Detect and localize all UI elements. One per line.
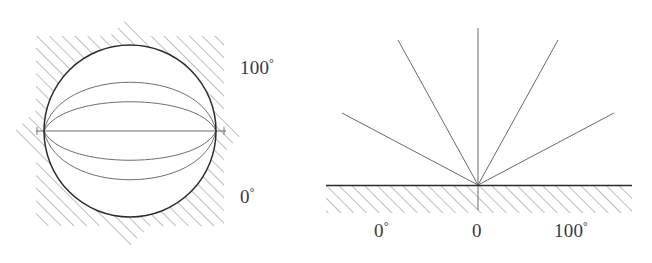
half-plane-geodesic-rays [342,28,614,185]
ray-4 [478,40,558,185]
sphere-disk-panel: 100° 0° [0,0,326,263]
sphere-label-top-value: 100 [240,57,269,78]
sphere-label-top: 100° [240,58,274,77]
half-plane-axis-label-origin-value: 0 [472,220,482,241]
sphere-label-bottom-value: 0 [240,186,250,207]
sphere-label-bottom-degree-icon: ° [250,186,255,199]
sphere-label-bottom: 0° [240,187,255,206]
half-plane-panel: 0° 0 100° [326,0,652,263]
half-plane-axis-label-right-degree-icon: ° [583,220,588,233]
half-plane-axis-label-right: 100° [554,221,588,240]
half-plane-below-hatching [326,186,632,213]
half-plane-axis-label-left: 0° [374,221,389,240]
sphere-disk-svg [0,0,326,263]
half-plane-axis-label-right-value: 100 [554,220,583,241]
half-plane-axis-label-left-degree-icon: ° [384,220,389,233]
sphere-label-top-degree-icon: ° [269,57,274,70]
half-plane-axis-label-origin: 0 [472,221,482,240]
half-plane-axis-label-left-value: 0 [374,220,384,241]
figure-root: 100° 0° [0,0,652,263]
ray-2 [398,40,478,185]
